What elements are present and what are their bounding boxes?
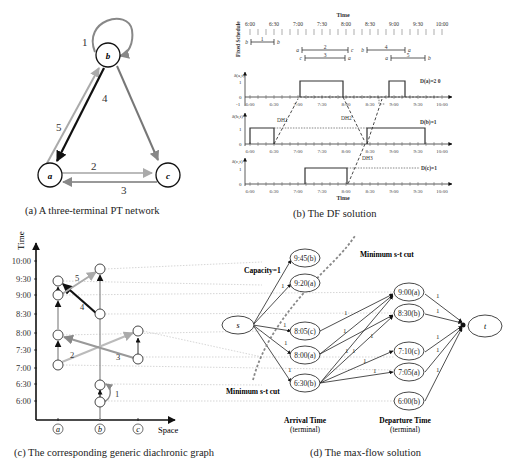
svg-text:8:30: 8:30 bbox=[366, 149, 375, 154]
svg-text:10:00: 10:00 bbox=[436, 189, 448, 194]
svg-text:c: c bbox=[351, 47, 354, 53]
plot-c-time-ticks: 6:00 6:30 7:00 7:30 8:00 8:30 9:00 9:30 … bbox=[246, 189, 449, 194]
departure-header: Departure Time bbox=[379, 416, 431, 425]
svg-text:9:00(a): 9:00(a) bbox=[398, 288, 420, 297]
svg-text:1: 1 bbox=[283, 321, 287, 329]
svg-text:1: 1 bbox=[436, 292, 440, 300]
svg-text:1: 1 bbox=[370, 332, 374, 340]
svg-text:8:30: 8:30 bbox=[365, 21, 375, 27]
svg-text:6:00: 6:00 bbox=[246, 102, 255, 107]
svg-text:6:30: 6:30 bbox=[270, 149, 279, 154]
svg-text:8:30: 8:30 bbox=[366, 189, 375, 194]
svg-text:1: 1 bbox=[352, 347, 356, 355]
edge-3-label: 3 bbox=[121, 184, 127, 196]
sink-edges bbox=[425, 294, 462, 401]
svg-text:8:00: 8:00 bbox=[342, 149, 351, 154]
capacity-label: Capacity=1 bbox=[244, 266, 281, 275]
svg-text:9:20(a): 9:20(a) bbox=[294, 279, 316, 288]
svg-text:a: a bbox=[348, 55, 351, 61]
svg-text:1: 1 bbox=[373, 367, 377, 375]
time-axis-title-top: Time bbox=[336, 12, 350, 18]
svg-text:6:30: 6:30 bbox=[270, 189, 279, 194]
svg-text:δ(b,t): δ(b,t) bbox=[232, 114, 243, 120]
dh1-label: DH1 bbox=[277, 117, 288, 123]
node-c-label: c bbox=[166, 171, 170, 181]
svg-text:δ(c,t): δ(c,t) bbox=[232, 159, 243, 165]
edge-2-label: 2 bbox=[91, 160, 97, 172]
svg-text:2: 2 bbox=[324, 44, 327, 50]
svg-text:1: 1 bbox=[115, 389, 119, 399]
svg-text:8:30: 8:30 bbox=[366, 102, 375, 107]
plot-delta-c: δ(c,t) 1 0 D(c)=1 bbox=[232, 158, 452, 187]
svg-text:6:30: 6:30 bbox=[270, 102, 279, 107]
edge-4 bbox=[57, 68, 104, 161]
svg-text:1: 1 bbox=[436, 307, 440, 315]
svg-text:c: c bbox=[136, 425, 140, 434]
svg-text:1: 1 bbox=[436, 346, 440, 354]
svg-text:10:00: 10:00 bbox=[436, 149, 448, 154]
svg-text:1: 1 bbox=[288, 366, 292, 374]
svg-text:3: 3 bbox=[116, 352, 120, 362]
svg-text:6:30(b): 6:30(b) bbox=[294, 379, 317, 388]
svg-text:7:30: 7:30 bbox=[318, 102, 327, 107]
svg-text:4: 4 bbox=[385, 44, 388, 50]
svg-text:δ(a,t): δ(a,t) bbox=[234, 73, 245, 79]
svg-text:6:00: 6:00 bbox=[246, 149, 255, 154]
svg-text:1: 1 bbox=[436, 366, 440, 374]
arrival-nodes bbox=[290, 249, 320, 392]
svg-text:7:00: 7:00 bbox=[293, 21, 303, 27]
caption-a: (a) A three-terminal PT network bbox=[25, 205, 160, 216]
svg-text:10:00: 10:00 bbox=[436, 102, 448, 107]
arrival-header: Arrival Time bbox=[284, 416, 327, 425]
svg-text:1: 1 bbox=[345, 347, 349, 355]
min-cut-label-bottom: Minimum s-t cut bbox=[226, 387, 280, 396]
schedule-ruler bbox=[250, 29, 442, 35]
svg-text:10:00: 10:00 bbox=[12, 256, 31, 266]
svg-text:10:00: 10:00 bbox=[436, 21, 449, 27]
svg-text:8:30(b): 8:30(b) bbox=[398, 309, 421, 318]
svg-text:D(c)=1: D(c)=1 bbox=[421, 165, 437, 172]
svg-text:6:30: 6:30 bbox=[16, 379, 31, 389]
x-axis-label: Space bbox=[158, 425, 179, 435]
svg-text:7:30: 7:30 bbox=[317, 21, 327, 27]
edge-1-label: 1 bbox=[82, 36, 88, 48]
svg-text:1: 1 bbox=[281, 282, 285, 290]
min-cut-label-top: Minimum s-t cut bbox=[360, 250, 414, 259]
svg-text:7:00: 7:00 bbox=[294, 149, 303, 154]
svg-text:b: b bbox=[245, 39, 248, 45]
svg-text:0: 0 bbox=[239, 95, 242, 100]
svg-text:7:30: 7:30 bbox=[318, 149, 327, 154]
svg-text:D(b)=1: D(b)=1 bbox=[420, 119, 437, 126]
svg-text:b: b bbox=[361, 47, 364, 53]
deadhead-lines bbox=[274, 97, 382, 184]
svg-text:9:45(b): 9:45(b) bbox=[294, 254, 317, 263]
time-axis-title-bottom: Time bbox=[336, 195, 350, 201]
edge-5 bbox=[46, 68, 99, 165]
svg-text:b: b bbox=[98, 425, 102, 434]
svg-text:a: a bbox=[296, 47, 299, 53]
svg-text:1: 1 bbox=[436, 333, 440, 341]
edge-b-c bbox=[117, 66, 158, 160]
svg-text:9:00: 9:00 bbox=[390, 102, 399, 107]
svg-text:9:30: 9:30 bbox=[414, 149, 423, 154]
svg-text:6:00: 6:00 bbox=[246, 189, 255, 194]
panel-a-network: b a c 1 2 3 4 5 bbox=[38, 19, 180, 196]
svg-text:b: b bbox=[428, 55, 431, 61]
svg-text:5: 5 bbox=[75, 273, 79, 283]
svg-text:6:00: 6:00 bbox=[16, 396, 31, 406]
plot-a-time-ticks: 6:00 6:30 7:00 7:30 8:00 8:30 9:00 9:30 … bbox=[246, 102, 449, 107]
y-ticks: 10:00 9:30 9:00 8:30 8:00 7:30 7:00 6:30… bbox=[12, 256, 31, 406]
svg-text:c: c bbox=[300, 55, 303, 61]
svg-text:7:00: 7:00 bbox=[294, 189, 303, 194]
svg-text:9:30: 9:30 bbox=[414, 189, 423, 194]
svg-text:1: 1 bbox=[239, 80, 242, 85]
svg-text:0: 0 bbox=[239, 182, 242, 187]
svg-text:8:30: 8:30 bbox=[16, 309, 31, 319]
svg-text:1: 1 bbox=[343, 327, 347, 335]
figure-canvas: b a c 1 2 3 4 5 Time Fixed Schedule 6:00… bbox=[0, 0, 506, 472]
svg-text:8:05(c): 8:05(c) bbox=[294, 327, 316, 336]
svg-text:6:30: 6:30 bbox=[269, 21, 279, 27]
dh2-label: DH2 bbox=[341, 115, 352, 121]
panel-d-max-flow: s t 9:45(b) 9:20(a) 8:05(c) 8:00(a) 6:30… bbox=[222, 236, 502, 434]
svg-text:b: b bbox=[277, 39, 280, 45]
